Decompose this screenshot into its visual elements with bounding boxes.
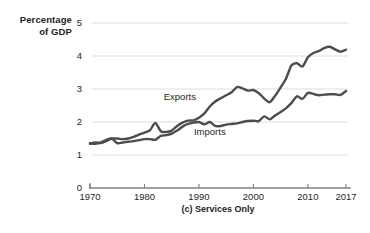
x-tick-label: 1970 (79, 191, 100, 202)
x-axis-line-group (90, 184, 350, 188)
y-tick-label: 2 (77, 116, 82, 127)
chart-figure: Percentage of GDP 012345 197019801990200… (0, 0, 370, 233)
x-tick-label: 2017 (335, 191, 356, 202)
x-tick-labels-group: 197019801990200020102017 (79, 191, 356, 202)
y-tick-label: 1 (77, 149, 82, 160)
y-axis-title: Percentage of GDP (0, 14, 72, 37)
x-tick-label: 1990 (188, 191, 209, 202)
y-tick-labels-group: 012345 (77, 17, 82, 193)
figure-caption: (c) Services Only (90, 204, 346, 214)
x-tick-label: 2010 (297, 191, 318, 202)
y-axis-title-line2: of GDP (39, 26, 72, 37)
series-label-exports: Exports (164, 91, 196, 102)
y-tick-label: 5 (77, 17, 82, 28)
series-label-imports: Imports (194, 126, 226, 137)
y-axis-title-line1: Percentage (20, 14, 72, 25)
y-tick-label: 4 (77, 50, 82, 61)
x-tick-label: 2000 (243, 191, 264, 202)
y-tick-label: 3 (77, 83, 82, 94)
x-tick-label: 1980 (134, 191, 155, 202)
